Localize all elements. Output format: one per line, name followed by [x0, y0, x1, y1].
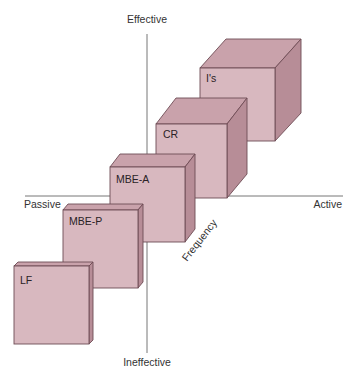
box-label-is: I's [206, 72, 216, 84]
axis-label-effective: Effective [127, 13, 167, 25]
box-label-mbe-p: MBE-P [69, 215, 102, 227]
box-label-lf: LF [20, 274, 32, 286]
axis-label-ineffective: Ineffective [123, 356, 171, 368]
axis-label-passive: Passive [24, 198, 61, 210]
box-lf: LF [14, 262, 93, 344]
leadership-model-diagram: Effective Ineffective Passive Active Fre… [0, 0, 359, 372]
box-label-mbe-a: MBE-A [116, 173, 149, 185]
axis-label-active: Active [313, 198, 342, 210]
box-label-cr: CR [163, 128, 179, 140]
